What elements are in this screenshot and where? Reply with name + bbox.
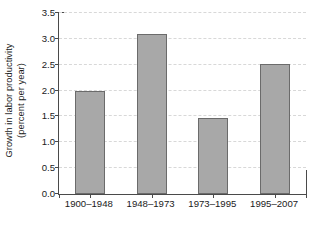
y-axis-title-line-1: Growth in labor productivity [4,43,16,157]
x-axis-tick-label: 1948–1973 [120,198,182,209]
x-axis-tick [306,194,307,198]
y-axis-tick [55,115,59,116]
y-axis-tick [55,38,59,39]
y-axis-tick-label: 0.0 [26,189,55,199]
plot-area [58,13,306,195]
y-axis-tick [55,64,59,65]
y-axis-tick-label: 2.5 [26,60,55,70]
bar [137,34,167,194]
y-axis-tick [55,141,59,142]
y-axis-title-text: Growth in labor productivity (percent pe… [4,43,27,157]
gridline [59,12,306,13]
bar [198,118,228,194]
y-axis-tick [55,12,59,13]
bar-chart-figure: Growth in labor productivity (percent pe… [0,0,316,225]
gridline [59,38,306,39]
y-axis-tick-label: 3.0 [26,34,55,44]
y-axis-tick-label: 2.0 [26,86,55,96]
y-axis-tick-label: 0.5 [26,163,55,173]
y-axis-tick [55,167,59,168]
bar [75,91,105,194]
y-axis-tick-labels: 0.00.51.01.52.02.53.03.5 [26,0,55,225]
axis-frame-right-stub [306,170,307,194]
y-axis-tick-label: 3.5 [26,8,55,18]
x-axis-tick-labels: 1900–19481948–19731973–19951995–2007 [58,198,305,218]
y-axis-tick-label: 1.0 [26,137,55,147]
x-axis-tick-label: 1900–1948 [58,198,120,209]
bar [260,64,290,194]
x-axis-tick-label: 1995–2007 [243,198,305,209]
y-axis-tick-label: 1.5 [26,111,55,121]
y-axis-title-line-2: (percent per year) [15,43,27,157]
x-axis-tick-label: 1973–1995 [182,198,244,209]
y-axis-tick [55,90,59,91]
